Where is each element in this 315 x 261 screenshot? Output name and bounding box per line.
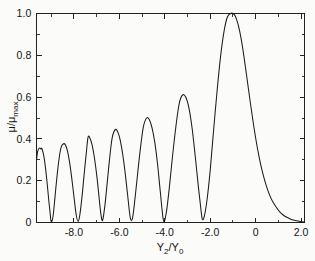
- y-tick-label: 0.2: [17, 174, 32, 186]
- data-series-group: [37, 13, 305, 222]
- x-tick-label: 2.0: [294, 226, 309, 238]
- y-axis-title: μ/μmax: [5, 102, 20, 133]
- x-axis-tick-labels: -8.0-6.0-4.0-2.002.0: [65, 226, 309, 238]
- x-tick-label: -6.0: [110, 226, 129, 238]
- x-tick-label: -8.0: [65, 226, 84, 238]
- x-tick-label: 0: [253, 226, 259, 238]
- curve-mu-over-mumax: [37, 13, 305, 222]
- figure-container: -8.0-6.0-4.0-2.002.0 00.20.40.60.81.0 Y2…: [0, 0, 315, 261]
- y-tick-label: 0: [26, 216, 32, 228]
- x-tick-label: -2.0: [201, 226, 220, 238]
- x-axis-ticks: [51, 14, 301, 223]
- y-tick-label: 1.0: [17, 7, 32, 19]
- chart-plot: -8.0-6.0-4.0-2.002.0 00.20.40.60.81.0 Y2…: [0, 0, 315, 261]
- y-tick-label: 0.8: [17, 49, 32, 61]
- x-tick-label: -4.0: [156, 226, 175, 238]
- y-axis-ticks: [37, 14, 305, 223]
- y-tick-label: 0.6: [17, 91, 32, 103]
- y-tick-label: 0.4: [17, 133, 32, 145]
- plot-frame: [37, 14, 305, 223]
- x-axis-title: Y2/Y0: [157, 241, 184, 256]
- svg-text:Y2/Y0: Y2/Y0: [157, 241, 184, 256]
- svg-text:μ/μmax: μ/μmax: [5, 102, 20, 133]
